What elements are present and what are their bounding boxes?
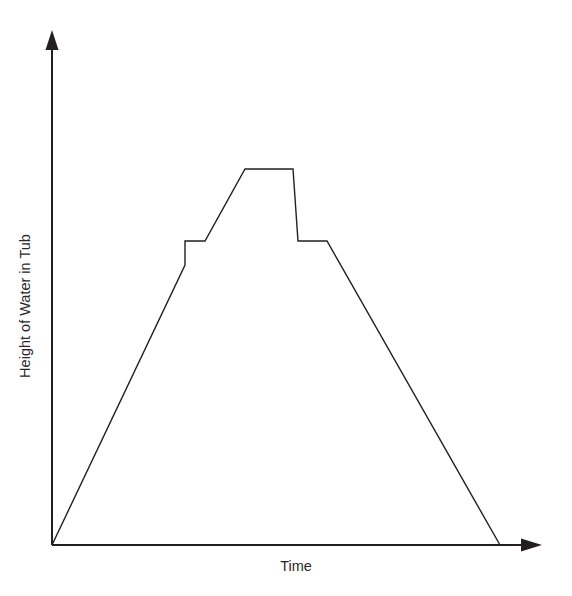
x-axis-arrowhead-icon	[521, 539, 542, 552]
line-chart	[0, 0, 572, 596]
y-axis-arrowhead-icon	[46, 30, 59, 50]
figure-canvas: tub at different times. Height of Water …	[0, 0, 572, 596]
y-axis-label-text: Height of Water in Tub	[17, 196, 33, 416]
water-height-series-line	[52, 169, 500, 545]
x-axis-label: Time	[236, 558, 356, 575]
